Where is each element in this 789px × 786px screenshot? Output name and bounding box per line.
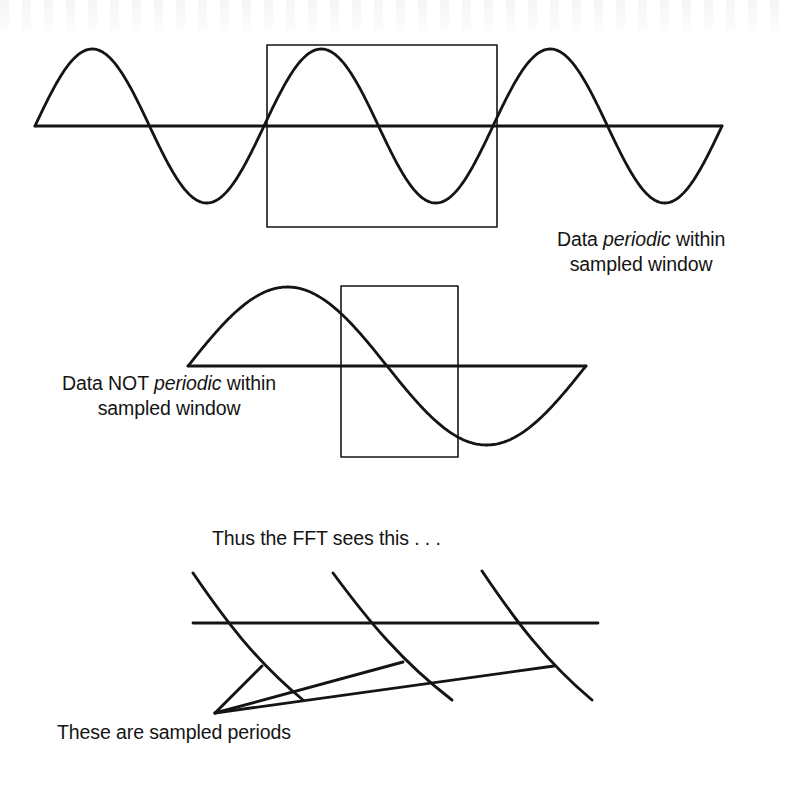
caption-not-periodic-line1: Data NOT periodic within [62, 372, 276, 394]
caption-not-periodic-prefix: Data NOT [62, 372, 154, 394]
caption-periodic-prefix: Data [557, 228, 603, 250]
caption-periodic-emphasis: periodic [603, 228, 671, 250]
sampled-period-fan-line-3 [215, 666, 554, 713]
caption-thus-the-fft-sees-this: Thus the FFT sees this . . . [212, 526, 441, 551]
figure-root: Data periodic within sampled window Data… [0, 0, 789, 786]
caption-these-are-sampled-periods: These are sampled periods [57, 720, 291, 745]
caption-periodic-line2: sampled window [557, 252, 725, 277]
fft-segment-2 [333, 573, 452, 700]
caption-not-periodic-emphasis: periodic [154, 372, 222, 394]
caption-periodic-line1: Data periodic within [557, 228, 725, 250]
caption-data-periodic: Data periodic within sampled window [557, 227, 725, 277]
caption-data-not-periodic: Data NOT periodic within sampled window [62, 371, 276, 421]
fft-segment-3 [482, 571, 592, 700]
sampled-period-fan-line-2 [215, 662, 403, 713]
sampling-window-rect-not-periodic-panel [341, 286, 458, 457]
caption-not-periodic-suffix: within [221, 372, 276, 394]
caption-periodic-suffix: within [671, 228, 726, 250]
caption-not-periodic-line2: sampled window [62, 396, 276, 421]
